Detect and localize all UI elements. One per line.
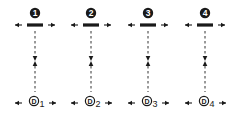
top-right-arrow-icon-head [164,23,168,27]
top-bar [83,23,99,26]
column-1: 1D1 [15,8,56,109]
bottom-right-arrow-icon-head [52,101,56,105]
top-left-arrow-icon-head [128,23,132,27]
bottom-node-subscript: 3 [153,99,158,109]
top-badge-number: 3 [146,8,151,18]
top-badge-3: 3 [143,8,153,18]
bottom-node-letter: D [144,98,149,105]
top-badge-number: 2 [89,8,94,18]
top-badge-number: 1 [33,8,38,18]
top-left-arrow-icon-head [71,23,75,27]
bottom-node-letter: D [87,98,92,105]
bottom-node-2: D2 [85,96,100,108]
top-right-arrow-icon-head [221,23,225,27]
bottom-node-letter: D [201,98,206,105]
bottom-right-arrow-icon-head [165,101,169,105]
up-arrowhead-icon [203,61,208,66]
bottom-node-3: D3 [142,96,157,108]
bottom-left-arrow-icon-head [185,101,189,105]
top-badge-number: 4 [203,8,208,18]
column-3: 3D3 [128,8,169,109]
top-left-arrow-icon-head [15,23,19,27]
bottom-node-1: D1 [29,96,44,108]
top-badge-2: 2 [86,8,96,18]
bottom-node-subscript: 1 [40,99,45,109]
bottom-right-arrow-icon-head [222,101,226,105]
bottom-left-arrow-icon-head [71,101,75,105]
top-bar [27,23,43,26]
down-arrowhead-icon [203,56,208,61]
bottom-node-subscript: 2 [96,99,101,109]
bottom-node-subscript: 4 [210,99,215,109]
bottom-node-4: D4 [199,96,214,108]
top-bar [140,23,156,26]
column-4: 4D4 [185,8,226,109]
bottom-right-arrow-icon-head [108,101,112,105]
down-arrowhead-icon [89,56,94,61]
top-left-arrow-icon-head [185,23,189,27]
top-right-arrow-icon-head [107,23,111,27]
diagram-canvas: 1D12D23D34D4 [0,0,241,121]
top-badge-4: 4 [200,8,210,18]
bottom-left-arrow-icon-head [15,101,19,105]
bottom-left-arrow-icon-head [128,101,132,105]
top-right-arrow-icon-head [51,23,55,27]
up-arrowhead-icon [89,61,94,66]
up-arrowhead-icon [146,61,151,66]
down-arrowhead-icon [33,56,38,61]
top-bar [197,23,213,26]
up-arrowhead-icon [33,61,38,66]
top-badge-1: 1 [30,8,40,18]
column-2: 2D2 [71,8,112,109]
bottom-node-letter: D [31,98,36,105]
down-arrowhead-icon [146,56,151,61]
